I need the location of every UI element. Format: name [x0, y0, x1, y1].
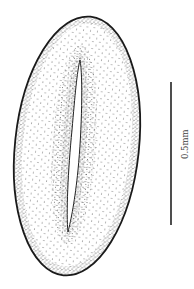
- scale-bar-label: 0.5mm: [178, 139, 192, 159]
- illustration: 0.5mm: [0, 0, 194, 289]
- grain-drawing: [0, 0, 194, 289]
